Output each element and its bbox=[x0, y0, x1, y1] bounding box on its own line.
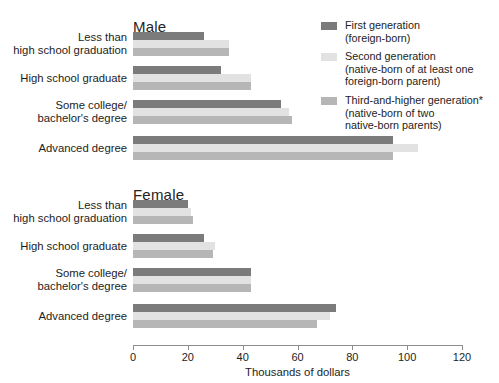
x-axis-tick bbox=[298, 345, 299, 350]
x-axis-tick bbox=[133, 345, 134, 350]
category-group: Some college/ bachelor's degree bbox=[0, 268, 499, 294]
bar bbox=[133, 100, 281, 108]
category-label: Some college/ bachelor's degree bbox=[0, 267, 127, 292]
category-label: High school graduate bbox=[0, 72, 127, 85]
bar bbox=[133, 66, 221, 74]
x-axis-tick-label: 0 bbox=[130, 351, 136, 363]
legend-item: First generation (foreign-born) bbox=[321, 19, 499, 44]
x-axis-tick bbox=[188, 345, 189, 350]
bar bbox=[133, 242, 215, 250]
bar bbox=[133, 48, 229, 56]
x-axis-tick bbox=[243, 345, 244, 350]
bar bbox=[133, 250, 213, 258]
bar bbox=[133, 304, 336, 312]
category-label: High school graduate bbox=[0, 240, 127, 253]
legend-label: Second generation (native-born of at lea… bbox=[345, 50, 499, 88]
legend: First generation (foreign-born)Second ge… bbox=[321, 19, 499, 138]
bar bbox=[133, 116, 292, 124]
bar bbox=[133, 276, 251, 284]
bar bbox=[133, 108, 289, 116]
legend-swatch bbox=[321, 53, 337, 61]
bar bbox=[133, 200, 188, 208]
x-axis-tick-label: 120 bbox=[453, 351, 471, 363]
bar bbox=[133, 284, 251, 292]
bar bbox=[133, 234, 204, 242]
x-axis-tick-label: 80 bbox=[346, 351, 358, 363]
legend-swatch bbox=[321, 97, 337, 105]
bar bbox=[133, 74, 251, 82]
x-axis-tick-label: 60 bbox=[291, 351, 303, 363]
category-label: Less than high school graduation bbox=[0, 31, 127, 56]
x-axis-label: Thousands of dollars bbox=[133, 366, 462, 378]
category-label: Advanced degree bbox=[0, 310, 127, 323]
category-group: Advanced degree bbox=[0, 304, 499, 330]
bar bbox=[133, 144, 418, 152]
category-label: Advanced degree bbox=[0, 142, 127, 155]
legend-label: First generation (foreign-born) bbox=[345, 19, 499, 44]
x-axis-tick bbox=[352, 345, 353, 350]
bar bbox=[133, 40, 229, 48]
chart-canvas: Male Less than high school graduationHig… bbox=[0, 0, 499, 383]
bar bbox=[133, 32, 204, 40]
legend-label: Third-and-higher generation* (native-bor… bbox=[345, 94, 499, 132]
legend-item: Third-and-higher generation* (native-bor… bbox=[321, 94, 499, 132]
bar bbox=[133, 152, 393, 160]
panel-female: Female Less than high school graduationH… bbox=[0, 186, 499, 346]
category-label: Less than high school graduation bbox=[0, 199, 127, 224]
category-group: High school graduate bbox=[0, 234, 499, 260]
x-axis-tick bbox=[462, 345, 463, 350]
x-axis-tick-label: 20 bbox=[182, 351, 194, 363]
category-group: Less than high school graduation bbox=[0, 200, 499, 226]
bar bbox=[133, 268, 251, 276]
x-axis-tick-label: 100 bbox=[398, 351, 416, 363]
bar bbox=[133, 216, 193, 224]
bar bbox=[133, 82, 251, 90]
bar bbox=[133, 208, 191, 216]
category-group: Advanced degree bbox=[0, 136, 499, 162]
bar bbox=[133, 312, 330, 320]
x-axis-tick bbox=[407, 345, 408, 350]
category-label: Some college/ bachelor's degree bbox=[0, 99, 127, 124]
legend-item: Second generation (native-born of at lea… bbox=[321, 50, 499, 88]
legend-swatch bbox=[321, 22, 337, 30]
bar bbox=[133, 320, 317, 328]
x-axis-tick-label: 40 bbox=[237, 351, 249, 363]
